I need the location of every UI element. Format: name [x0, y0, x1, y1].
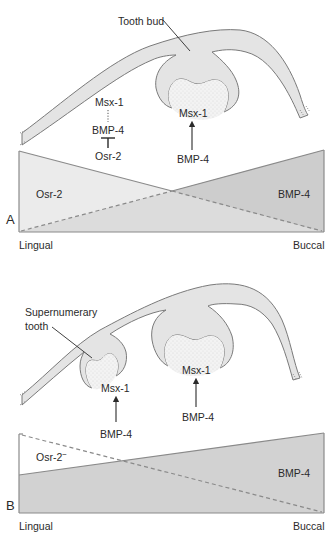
osr2-superscript-b: −: [62, 450, 67, 459]
bud-bmp4-a: BMP-4: [177, 153, 209, 165]
gradient-label-bmp4-a: BMP-4: [278, 188, 310, 200]
oral-epithelium-b: [22, 284, 300, 405]
pathway-msx1-a: Msx-1: [95, 96, 124, 108]
gradient-label-bmp4-b: BMP-4: [278, 467, 310, 479]
axis-buccal-b: Buccal: [293, 520, 325, 532]
callout-supernumerary-line2: tooth: [25, 320, 49, 332]
callout-supernumerary-line1: Supernumerary: [25, 306, 98, 318]
callout-tooth-bud: Tooth bud: [118, 15, 164, 27]
axis-buccal-a: Buccal: [293, 239, 325, 251]
tooth-development-diagram: Tooth bud Msx-1 BMP-4 Osr-2 Msx-1 BMP-4 …: [0, 0, 331, 538]
super-bud-bmp4-b: BMP-4: [100, 428, 132, 440]
panel-b: Supernumerary tooth Msx-1 BMP-4 Msx-1 BM…: [6, 284, 325, 532]
panel-label-b: B: [6, 498, 15, 513]
bud-bmp4-b: BMP-4: [182, 411, 214, 423]
panel-a: Tooth bud Msx-1 BMP-4 Osr-2 Msx-1 BMP-4 …: [6, 15, 325, 251]
axis-lingual-b: Lingual: [19, 520, 53, 532]
gradient-label-osr2-b: Osr-2−: [36, 450, 67, 463]
bud-msx1-b: Msx-1: [182, 364, 211, 376]
bud-msx1-a: Msx-1: [179, 107, 208, 119]
gradient-label-osr2-a: Osr-2: [36, 188, 62, 200]
super-bud-msx1-b: Msx-1: [101, 382, 130, 394]
pathway-bmp4-a: BMP-4: [92, 124, 124, 136]
oral-epithelium-a: [22, 30, 308, 145]
axis-lingual-a: Lingual: [19, 239, 53, 251]
panel-label-a: A: [6, 212, 15, 227]
osr2-label-b: Osr-2: [36, 451, 62, 463]
pathway-osr2-a: Osr-2: [95, 150, 121, 162]
